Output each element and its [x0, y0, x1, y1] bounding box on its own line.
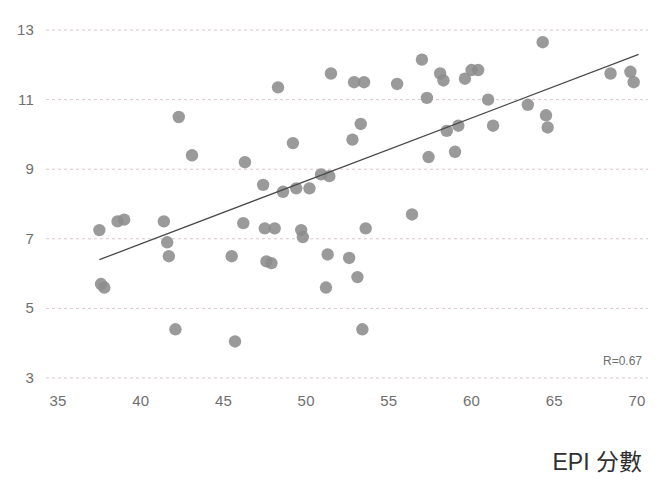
data-point [472, 64, 484, 76]
data-point [272, 81, 284, 93]
data-point [437, 74, 449, 86]
data-point [351, 271, 363, 283]
data-point [358, 76, 370, 88]
data-point [257, 179, 269, 191]
data-point [303, 182, 315, 194]
correlation-annotation: R=0.67 [603, 354, 642, 368]
data-point [321, 248, 333, 260]
data-point [360, 222, 372, 234]
data-point [163, 250, 175, 262]
data-point [186, 149, 198, 161]
x-axis-tick-label: 55 [369, 392, 409, 409]
data-point [169, 323, 181, 335]
data-point [158, 215, 170, 227]
data-point [604, 67, 616, 79]
data-point [265, 257, 277, 269]
y-axis-tick-label: 9 [0, 160, 34, 177]
y-axis-tick-label: 11 [0, 91, 34, 108]
x-axis-tick-label: 65 [534, 392, 574, 409]
data-point [287, 137, 299, 149]
data-point [237, 217, 249, 229]
x-axis-tick-label: 45 [203, 392, 243, 409]
data-point [355, 118, 367, 130]
data-point [441, 125, 453, 137]
data-point [93, 224, 105, 236]
y-axis-tick-label: 5 [0, 299, 34, 316]
data-point [98, 281, 110, 293]
data-point [297, 231, 309, 243]
data-point [239, 156, 251, 168]
data-point [320, 281, 332, 293]
data-point [627, 76, 639, 88]
data-point [540, 109, 552, 121]
data-point [391, 78, 403, 90]
y-axis-tick-label: 13 [0, 21, 34, 38]
data-point [522, 99, 534, 111]
data-point [541, 121, 553, 133]
data-point [449, 146, 461, 158]
data-point [416, 53, 428, 65]
data-point [269, 222, 281, 234]
scatter-chart: 35791113 3540455055606570 R=0.67 EPI 分數 [0, 0, 660, 480]
data-points-layer [93, 36, 640, 348]
data-point [406, 208, 418, 220]
x-axis-tick-label: 70 [617, 392, 657, 409]
x-axis-tick-label: 40 [121, 392, 161, 409]
data-point [173, 111, 185, 123]
x-axis-tick-label: 35 [38, 392, 78, 409]
data-point [346, 133, 358, 145]
y-axis-tick-label: 3 [0, 369, 34, 386]
data-point [422, 151, 434, 163]
x-axis-tick-label: 60 [452, 392, 492, 409]
data-point [487, 120, 499, 132]
gridlines [46, 30, 648, 378]
data-point [118, 213, 130, 225]
data-point [325, 67, 337, 79]
data-point [229, 335, 241, 347]
x-axis-title: EPI 分數 [553, 443, 642, 477]
x-axis-tick-label: 50 [286, 392, 326, 409]
data-point [421, 92, 433, 104]
data-point [290, 182, 302, 194]
y-axis-tick-label: 7 [0, 230, 34, 247]
data-point [161, 236, 173, 248]
data-point [537, 36, 549, 48]
data-point [482, 93, 494, 105]
data-point [226, 250, 238, 262]
data-point [356, 323, 368, 335]
data-point [343, 252, 355, 264]
